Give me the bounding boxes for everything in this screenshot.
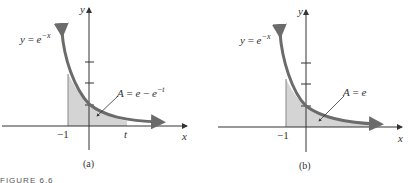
- x-tick-label-t-a: t: [124, 128, 127, 140]
- function-label-a: y = e−x: [20, 31, 50, 45]
- panel-a: [2, 8, 187, 150]
- y-axis-label-b: y: [298, 5, 303, 17]
- x-axis-label-a: x: [182, 130, 187, 142]
- y-axis-label-a: y: [80, 3, 85, 15]
- area-label-b: A = e: [343, 86, 366, 98]
- x-tick-label-neg1-a: −1: [57, 128, 69, 140]
- figure-caption: FIGURE 6.6: [0, 176, 54, 183]
- caption-a: (a): [83, 158, 94, 169]
- x-tick-label-neg1-b: −1: [277, 129, 289, 141]
- x-axis-label-b: x: [398, 132, 403, 144]
- area-label-a: A = e − e−t: [117, 85, 165, 99]
- caption-b: (b): [299, 160, 311, 171]
- function-label-b: y = e−x: [240, 32, 270, 46]
